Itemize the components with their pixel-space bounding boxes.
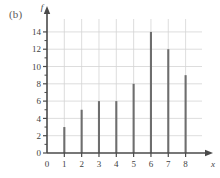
axes (44, 6, 213, 156)
y-tick-label: 12 (32, 44, 41, 54)
x-tick-label: 5 (131, 159, 136, 169)
x-axis-label: x (210, 159, 215, 169)
y-tick-label: 6 (37, 96, 42, 106)
y-tick-label: 8 (37, 79, 42, 89)
y-tick-label: 2 (37, 131, 42, 141)
x-tick-label: 4 (114, 159, 119, 169)
x-tick-label: 0 (45, 159, 50, 169)
y-tick-label: 4 (37, 114, 42, 124)
grid-lines (47, 19, 202, 153)
y-tick-label: 0 (37, 148, 42, 158)
bar-series (64, 32, 185, 153)
x-tick-label: 6 (149, 159, 154, 169)
x-tick-label: 2 (79, 159, 84, 169)
bar-chart: 02468101214012345678 fx (0, 0, 220, 178)
x-tick-label: 1 (62, 159, 67, 169)
x-axis-arrow (205, 150, 213, 156)
y-tick-label: 10 (32, 62, 42, 72)
x-tick-label: 8 (183, 159, 188, 169)
figure-panel: (b) 02468101214012345678 fx (0, 0, 220, 178)
y-axis-arrow (44, 6, 50, 14)
axis-tick-labels: 02468101214012345678 (32, 27, 188, 169)
y-axis-label: f (41, 2, 45, 12)
x-tick-label: 7 (166, 159, 171, 169)
x-tick-label: 3 (97, 159, 102, 169)
axis-names: fx (41, 2, 215, 169)
y-tick-label: 14 (32, 27, 42, 37)
